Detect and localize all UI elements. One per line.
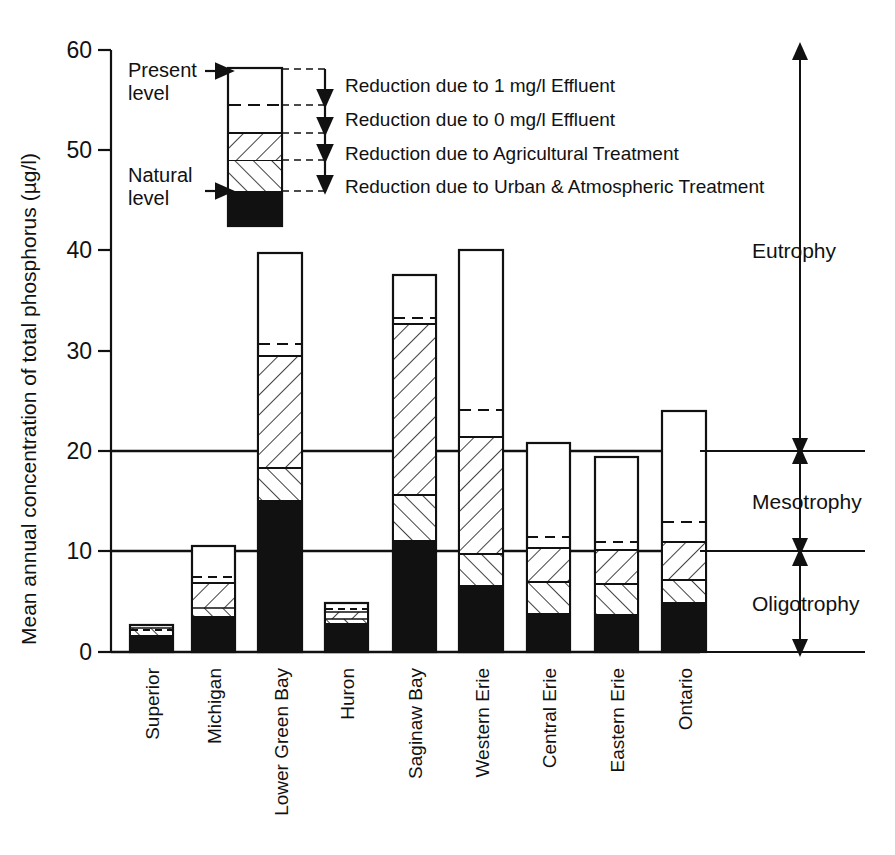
annotation-present-line1: Present bbox=[128, 59, 197, 81]
bar-band-agri-ontario bbox=[663, 542, 705, 580]
x-label-huron: Huron bbox=[337, 668, 358, 720]
x-label-central-erie: Central Erie bbox=[539, 668, 560, 768]
bar-group-huron[interactable] bbox=[325, 603, 368, 652]
bar-group-superior[interactable] bbox=[130, 625, 173, 652]
bar-band-urban-superior bbox=[131, 628, 172, 635]
phosphorus-stacked-bar-chart: 60 50 40 30 20 10 0 Mean annual concentr… bbox=[0, 0, 895, 855]
bar-band-urban-ontario bbox=[663, 580, 705, 602]
y-tick-label-10: 10 bbox=[66, 538, 92, 564]
x-label-superior: Superior bbox=[142, 667, 163, 739]
annotation-natural-line2: level bbox=[128, 187, 169, 209]
bar-band-natural-lower-green-bay bbox=[259, 500, 301, 651]
trophic-label-oligotrophy: Oligotrophy bbox=[752, 592, 860, 615]
bar-group-eastern-erie[interactable] bbox=[595, 457, 638, 652]
bar-band-natural-michigan bbox=[193, 616, 234, 651]
trophic-label-mesotrophy: Mesotrophy bbox=[752, 490, 862, 513]
x-label-eastern-erie: Eastern Erie bbox=[607, 668, 628, 773]
key-band-natural bbox=[229, 191, 281, 225]
x-label-western-erie: Western Erie bbox=[472, 668, 493, 777]
y-axis-title-text: Mean annual concentration of total phosp… bbox=[17, 153, 40, 645]
bar-band-agri-michigan bbox=[193, 583, 234, 608]
x-label-michigan: Michigan bbox=[204, 668, 225, 744]
bar-band-urban-lower-green-bay bbox=[259, 468, 301, 500]
bar-band-agri-central-erie bbox=[528, 548, 569, 582]
bar-band-natural-central-erie bbox=[528, 613, 569, 651]
y-tick-label-50: 50 bbox=[66, 137, 92, 163]
x-label-saginaw-bay: Saginaw Bay bbox=[405, 668, 426, 779]
bar-band-urban-saginaw-bay bbox=[394, 495, 435, 540]
legend-item-1mg-effluent: Reduction due to 1 mg/l Effluent bbox=[345, 75, 616, 96]
x-label-lower-green-bay: Lower Green Bay bbox=[271, 668, 292, 816]
key-band-agricultural bbox=[229, 133, 281, 160]
bar-band-agri-eastern-erie bbox=[596, 550, 637, 584]
key-band-urban-atmospheric bbox=[229, 160, 281, 191]
bar-band-agri-saginaw-bay bbox=[394, 324, 435, 495]
bar-group-michigan[interactable] bbox=[192, 546, 235, 652]
bar-group-central-erie[interactable] bbox=[527, 443, 570, 652]
bar-band-natural-western-erie bbox=[460, 585, 502, 651]
bar-band-natural-saginaw-bay bbox=[394, 540, 435, 651]
bar-group-ontario[interactable] bbox=[662, 411, 706, 652]
y-tick-label-0: 0 bbox=[79, 639, 92, 665]
x-label-ontario: Ontario bbox=[675, 668, 696, 730]
bar-group-saginaw-bay[interactable] bbox=[393, 275, 436, 652]
bar-band-urban-western-erie bbox=[460, 554, 502, 585]
bar-band-natural-superior bbox=[131, 635, 172, 651]
y-tick-label-20: 20 bbox=[66, 438, 92, 464]
y-axis-title: Mean annual concentration of total phosp… bbox=[17, 153, 40, 645]
bar-band-agri-lower-green-bay bbox=[259, 356, 301, 468]
bar-band-natural-eastern-erie bbox=[596, 614, 637, 651]
legend-item-urban-atmospheric: Reduction due to Urban & Atmospheric Tre… bbox=[345, 176, 765, 197]
annotation-natural-line1: Natural bbox=[128, 164, 192, 186]
bar-band-urban-eastern-erie bbox=[596, 584, 637, 614]
trophic-label-eutrophy: Eutrophy bbox=[752, 239, 837, 262]
legend-item-0mg-effluent: Reduction due to 0 mg/l Effluent bbox=[345, 109, 616, 130]
bar-group-western-erie[interactable] bbox=[459, 250, 503, 652]
bar-band-natural-huron bbox=[326, 623, 367, 651]
bar-band-urban-michigan bbox=[193, 608, 234, 616]
y-tick-label-60: 60 bbox=[66, 37, 92, 63]
bar-band-agri-huron bbox=[326, 612, 367, 619]
bar-group-lower-green-bay[interactable] bbox=[258, 253, 302, 652]
bar-band-natural-ontario bbox=[663, 602, 705, 651]
y-tick-label-30: 30 bbox=[66, 338, 92, 364]
bar-band-urban-central-erie bbox=[528, 582, 569, 613]
chart-canvas: 60 50 40 30 20 10 0 Mean annual concentr… bbox=[0, 0, 895, 855]
legend-item-agricultural: Reduction due to Agricultural Treatment bbox=[345, 143, 679, 164]
annotation-present-line2: level bbox=[128, 82, 169, 104]
y-tick-label-40: 40 bbox=[66, 237, 92, 263]
bar-band-agri-western-erie bbox=[460, 437, 502, 554]
